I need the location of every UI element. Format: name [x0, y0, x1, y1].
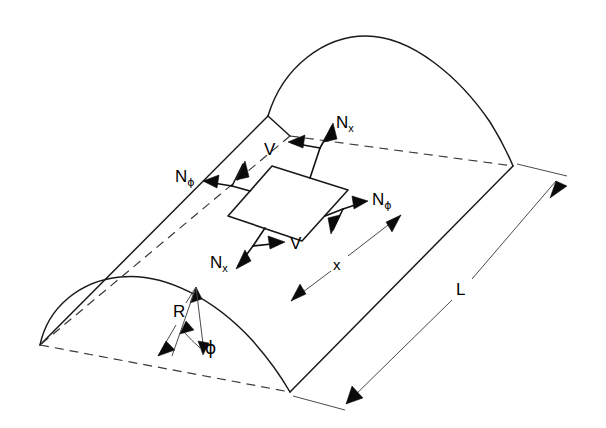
angle-phi-label: ϕ [205, 338, 216, 358]
dimension-x-arrowhead-upper [386, 215, 401, 232]
nphi-left-arrowhead [203, 175, 219, 188]
dimension-L-arrowhead-top [550, 181, 567, 198]
force-group-nx-bottom: Nx V [210, 228, 302, 274]
angle-phi-radius-line [172, 287, 196, 356]
force-group-nphi-left: Nϕ [175, 161, 250, 191]
far-arch-springing-tick [268, 116, 290, 136]
dimension-L: L [293, 164, 567, 410]
nx-bottom-label: Nx [210, 253, 228, 274]
dimension-L-label: L [456, 280, 465, 299]
angle-phi-arc [183, 331, 200, 348]
nphi-left-stem [232, 186, 250, 191]
diagram-canvas: L x R ϕ [0, 0, 606, 428]
right-generator-edge [290, 166, 513, 392]
back-left-generator-hidden-line [40, 136, 290, 345]
nphi-left-label: Nϕ [175, 167, 195, 189]
far-arch-edge [268, 36, 513, 166]
dimension-R-label: R [173, 302, 185, 321]
left-generator-edge [40, 116, 268, 345]
dimension-R: R [158, 287, 202, 356]
dimension-L-leader-bottom [293, 396, 345, 410]
near-arch-edge [40, 276, 290, 392]
dimension-L-leader-top [517, 164, 567, 176]
v-top-label: V [264, 140, 276, 159]
nx-top-label: Nx [336, 113, 354, 134]
nx-top-stem [310, 148, 320, 178]
cylindrical-shell-diagram: L x R ϕ [0, 0, 606, 428]
v-bottom-arrowhead [268, 236, 285, 249]
force-group-nphi-right: Nϕ [325, 190, 392, 234]
nphi-right-label: Nϕ [372, 190, 392, 212]
nx-bottom-stem [253, 228, 265, 246]
nphi-right-arrowhead [352, 196, 368, 209]
v-bottom-label: V [290, 234, 302, 253]
dimension-x: x [291, 215, 401, 301]
dimension-x-arrowhead-lower [291, 284, 306, 301]
dimension-x-label: x [333, 256, 341, 273]
dimension-L-arrowhead-bottom [346, 386, 363, 404]
v-right-arrowhead [328, 215, 340, 234]
dimension-L-line-lower [346, 300, 452, 404]
